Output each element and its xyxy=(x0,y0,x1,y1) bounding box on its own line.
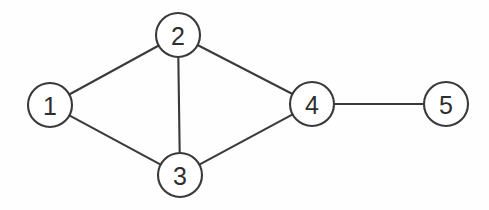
graph-node-label-1: 1 xyxy=(43,92,57,120)
graph-node-3[interactable]: 3 xyxy=(158,153,202,197)
graph-node-label-3: 3 xyxy=(173,162,187,190)
graph-edge-3-4 xyxy=(199,114,293,165)
graph-node-5[interactable]: 5 xyxy=(424,82,468,126)
graph-diagram: 12345 xyxy=(0,0,489,210)
edge-layer xyxy=(69,45,425,165)
graph-edge-1-3 xyxy=(69,115,161,165)
graph-canvas: 12345 xyxy=(0,0,489,210)
graph-node-label-4: 4 xyxy=(305,91,319,119)
graph-edge-1-2 xyxy=(69,45,159,94)
graph-edge-2-3 xyxy=(178,56,179,153)
graph-edge-2-4 xyxy=(197,45,293,94)
graph-node-4[interactable]: 4 xyxy=(290,82,334,126)
graph-node-label-5: 5 xyxy=(439,91,453,119)
graph-node-label-2: 2 xyxy=(171,22,185,50)
graph-node-1[interactable]: 1 xyxy=(28,83,72,127)
graph-node-2[interactable]: 2 xyxy=(156,13,200,57)
